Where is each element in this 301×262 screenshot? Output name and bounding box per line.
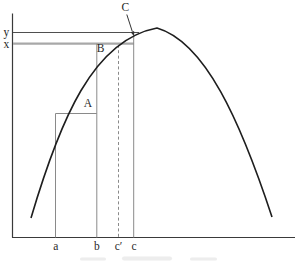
label-tick-c: c: [131, 240, 136, 252]
caption-smudge-fragment: [80, 258, 106, 261]
figure-canvas: A B C y x a b c′ c: [0, 0, 301, 262]
label-point-C: C: [121, 1, 129, 13]
c-label-arrow-shaft: [127, 15, 133, 32]
cropped-caption-smudge: [80, 257, 217, 261]
label-point-A: A: [84, 97, 93, 109]
label-tick-c-prime: c′: [115, 240, 123, 252]
label-tick-b: b: [94, 240, 100, 252]
figure-page: A B C y x a b c′ c: [0, 0, 301, 262]
label-x-value: x: [3, 38, 9, 50]
label-point-B: B: [97, 42, 105, 54]
caption-smudge-fragment: [122, 257, 172, 261]
label-tick-a: a: [53, 240, 58, 252]
function-curve: [31, 28, 272, 218]
caption-smudge-fragment: [190, 258, 217, 261]
